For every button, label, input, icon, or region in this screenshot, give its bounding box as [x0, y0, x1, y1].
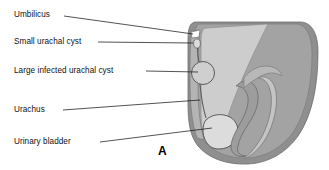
label-small-urachal-cyst: Small urachal cyst: [14, 37, 81, 46]
leader-line-small-urachal-cyst: [98, 42, 193, 43]
label-large-infected-urachal-cyst: Large infected urachal cyst: [14, 66, 113, 75]
large-infected-urachal-cyst-shape: [192, 62, 215, 85]
label-urachus: Urachus: [14, 105, 45, 114]
leader-line-urachus: [63, 100, 200, 110]
label-umbilicus: Umbilicus: [14, 10, 50, 19]
leader-line-umbilicus: [64, 16, 193, 34]
panel-label-a: A: [158, 144, 167, 158]
figure-panel-a: Umbilicus Small urachal cyst Large infec…: [0, 0, 329, 170]
label-urinary-bladder: Urinary bladder: [14, 137, 71, 146]
small-urachal-cyst-shape: [194, 39, 201, 48]
